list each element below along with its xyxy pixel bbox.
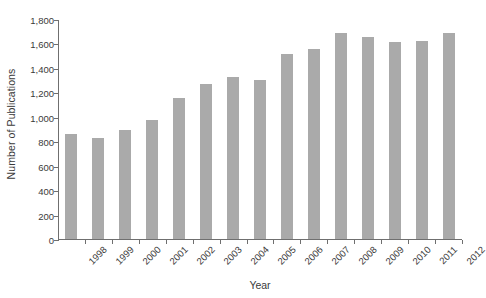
y-tick-label: 800 bbox=[18, 137, 54, 148]
y-tick-label: 1,400 bbox=[18, 63, 54, 74]
y-tick-label: 1,000 bbox=[18, 112, 54, 123]
bar bbox=[92, 138, 104, 239]
y-tick-mark bbox=[54, 44, 58, 45]
y-tick-mark bbox=[54, 93, 58, 94]
bar bbox=[443, 33, 455, 239]
x-tick-label: 2002 bbox=[194, 244, 217, 267]
x-tick-label: 2000 bbox=[141, 244, 164, 267]
y-tick-mark bbox=[54, 240, 58, 241]
y-tick-mark bbox=[54, 167, 58, 168]
bar bbox=[173, 98, 185, 239]
x-tick-label: 2004 bbox=[248, 244, 271, 267]
y-axis-title-text: Number of Publications bbox=[5, 69, 17, 180]
y-tick-label: 400 bbox=[18, 186, 54, 197]
x-axis-title: Year bbox=[58, 279, 462, 291]
y-tick-mark bbox=[54, 118, 58, 119]
y-tick-mark bbox=[54, 216, 58, 217]
y-axis-tick-labels: 02004006008001,0001,2001,4001,6001,800 bbox=[18, 20, 54, 240]
x-tick-label: 2009 bbox=[383, 244, 406, 267]
bar bbox=[119, 130, 131, 239]
x-tick-label: 2006 bbox=[302, 244, 325, 267]
bar bbox=[308, 49, 320, 239]
x-tick-label: 2012 bbox=[464, 244, 486, 267]
bar bbox=[281, 54, 293, 239]
x-tick-label: 2010 bbox=[410, 244, 433, 267]
x-tick-label: 2008 bbox=[356, 244, 379, 267]
x-axis-line bbox=[58, 239, 462, 240]
y-tick-label: 200 bbox=[18, 210, 54, 221]
x-tick-label: 1999 bbox=[114, 244, 137, 267]
x-tick-label: 2005 bbox=[275, 244, 298, 267]
y-tick-label: 0 bbox=[18, 235, 54, 246]
x-tick-label: 2003 bbox=[221, 244, 244, 267]
plot-area bbox=[58, 20, 462, 240]
bar bbox=[335, 33, 347, 239]
bar bbox=[65, 134, 77, 239]
y-tick-mark bbox=[54, 20, 58, 21]
x-tick-label: 2007 bbox=[329, 244, 352, 267]
bar bbox=[227, 77, 239, 239]
bar bbox=[389, 42, 401, 239]
x-tick-label: 2011 bbox=[437, 244, 459, 266]
x-tick-label: 1998 bbox=[87, 244, 110, 267]
bar bbox=[416, 41, 428, 239]
x-tick-mark bbox=[462, 240, 463, 244]
y-tick-mark bbox=[54, 142, 58, 143]
y-tick-mark bbox=[54, 69, 58, 70]
x-tick-label: 2001 bbox=[167, 244, 190, 267]
y-tick-label: 1,600 bbox=[18, 39, 54, 50]
bar bbox=[146, 120, 158, 239]
y-tick-label: 1,800 bbox=[18, 15, 54, 26]
x-axis-tick-labels: 1998199920002001200220032004200520062007… bbox=[58, 244, 462, 278]
bar bbox=[362, 37, 374, 239]
y-tick-label: 1,200 bbox=[18, 88, 54, 99]
y-tick-label: 600 bbox=[18, 161, 54, 172]
y-axis-line bbox=[58, 20, 59, 241]
y-tick-mark bbox=[54, 191, 58, 192]
bar bbox=[200, 84, 212, 239]
bar bbox=[254, 80, 266, 239]
